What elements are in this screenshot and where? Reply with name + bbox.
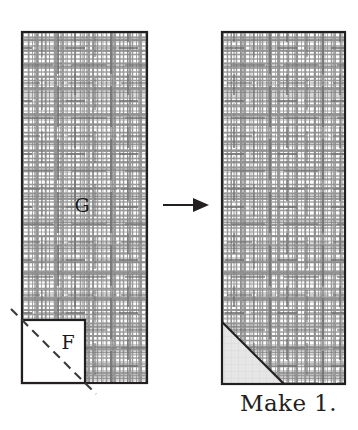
make-count-caption: Make 1. xyxy=(240,392,337,415)
right-arrow-icon xyxy=(163,198,209,212)
before-unit: G F xyxy=(11,32,147,394)
after-unit xyxy=(222,32,345,384)
piece-g-after[interactable] xyxy=(222,32,345,384)
quilt-block-diagram: G F xyxy=(0,0,358,430)
diagram-stage: G F Make xyxy=(0,0,358,430)
piece-label-f: F xyxy=(61,331,74,353)
piece-label-g: G xyxy=(74,194,89,216)
